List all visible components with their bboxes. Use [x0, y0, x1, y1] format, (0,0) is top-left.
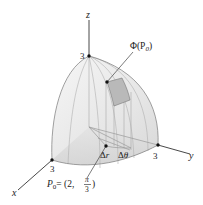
z-intercept-point [87, 54, 90, 57]
z-intercept-label: 3 [80, 51, 85, 61]
y-axis-label: y [188, 150, 194, 161]
p0-label: P0= (2, [46, 179, 74, 191]
x-axis-label: x [11, 187, 17, 198]
x-intercept-label: 3 [50, 164, 55, 174]
delta-r-label: Δr [100, 150, 110, 160]
figure: z x y 3 3 3 Φ(P0) Δr Δθ P0= (2, π 3 ) [0, 0, 203, 205]
x-intercept-point [50, 158, 53, 161]
p0-close-paren: ) [92, 179, 95, 190]
diagram-svg: z x y 3 3 3 Φ(P0) Δr Δθ P0= (2, π 3 ) [0, 0, 203, 205]
y-axis [158, 145, 190, 154]
image-point-label: Φ(P0) [130, 41, 152, 53]
delta-theta-label: Δθ [118, 150, 129, 160]
p0-fraction-numerator: π [85, 175, 89, 184]
y-intercept-point [156, 143, 159, 146]
y-intercept-label: 3 [153, 151, 158, 161]
p0-fraction-denominator: 3 [85, 185, 89, 194]
p0-point [104, 144, 107, 147]
image-point [105, 80, 108, 83]
z-axis-label: z [85, 9, 90, 20]
